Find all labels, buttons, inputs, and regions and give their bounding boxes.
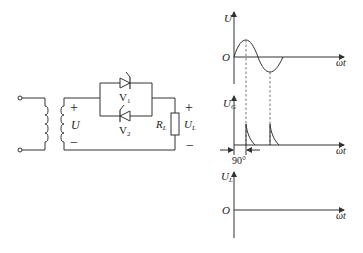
- load-voltage-label: UL: [184, 118, 196, 132]
- load-plus: +: [185, 100, 193, 115]
- supply-voltage-graph: U O ωt: [222, 12, 346, 145]
- gate-x-label: ωt: [336, 145, 346, 156]
- sine-waveform: [234, 40, 283, 72]
- secondary-plus: +: [70, 100, 78, 115]
- thyristor-v2-icon: [120, 105, 130, 122]
- thyristor-v1-icon: [120, 72, 130, 89]
- transformer-secondary-coil: [61, 106, 64, 142]
- gate-pulse-2: [270, 124, 279, 145]
- source-voltage-label: U: [71, 118, 81, 132]
- load-y-label: UL: [221, 170, 233, 184]
- ac-switch-circuit-diagram: + U − V1 V2 RL + UL − U O ωt UG ωt 90°: [0, 0, 363, 253]
- firing-angle-label: 90°: [232, 155, 246, 166]
- load-x-label: ωt: [336, 210, 346, 221]
- load-origin-label: O: [222, 204, 230, 216]
- supply-x-label: ωt: [336, 57, 346, 68]
- load-minus: −: [186, 138, 194, 153]
- load-resistor-label: RL: [155, 118, 167, 132]
- gate-pulse-graph: UG ωt 90°: [220, 96, 346, 166]
- circuit: + U − V1 V2 RL + UL −: [18, 72, 196, 153]
- load-voltage-graph: UL O ωt: [221, 170, 346, 238]
- gate-pulse-1: [246, 124, 255, 145]
- input-terminal-bottom: [18, 148, 22, 152]
- thyristor-v1-label: V1: [119, 91, 131, 105]
- thyristor-v2-label: V2: [119, 124, 131, 138]
- secondary-minus: −: [70, 135, 78, 150]
- load-resistor-icon: [171, 113, 179, 135]
- transformer-primary-coil: [45, 106, 48, 142]
- input-terminal-top: [18, 96, 22, 100]
- supply-origin-label: O: [222, 51, 230, 63]
- supply-y-label: U: [224, 12, 233, 24]
